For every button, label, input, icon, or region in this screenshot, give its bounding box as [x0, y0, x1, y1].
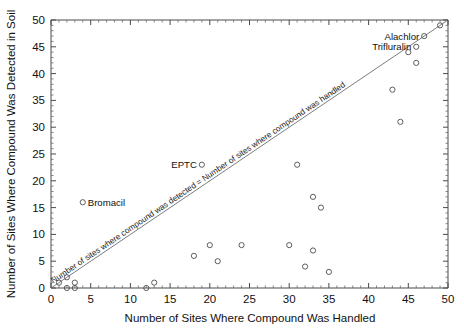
point-annotation-label: Bromacil [88, 197, 125, 208]
x-tick-label: 35 [323, 293, 336, 305]
point-annotation-label: Alachlor [385, 31, 420, 42]
x-tick-label: 45 [402, 293, 415, 305]
x-tick-label: 50 [442, 293, 455, 305]
y-tick-label: 35 [32, 94, 45, 106]
x-tick-label: 25 [243, 293, 256, 305]
y-tick-label: 20 [32, 175, 45, 187]
y-tick-label: 25 [32, 148, 45, 160]
x-tick-label: 30 [283, 293, 296, 305]
y-tick-label: 10 [32, 228, 45, 240]
x-tick-label: 5 [87, 293, 93, 305]
point-annotation-label: Trifluralin [372, 41, 411, 52]
y-tick-label: 30 [32, 121, 45, 133]
x-tick-label: 20 [203, 293, 216, 305]
y-tick-label: 15 [32, 202, 45, 214]
x-tick-label: 10 [124, 293, 137, 305]
x-tick-label: 15 [164, 293, 177, 305]
point-annotation-label: EPTC [171, 159, 197, 170]
x-axis-title: Number of Sites Where Compound Was Handl… [125, 312, 376, 324]
y-axis-title: Number of Sites Where Compound Was Detec… [5, 10, 17, 298]
x-tick-label: 40 [362, 293, 375, 305]
y-tick-label: 45 [32, 41, 45, 53]
y-tick-label: 0 [39, 282, 45, 294]
scatter-plot-figure: 05101520253035404550 0510152025303540455… [0, 0, 464, 330]
y-tick-label: 5 [39, 255, 45, 267]
y-tick-label: 40 [32, 68, 45, 80]
x-tick-label: 0 [48, 293, 54, 305]
y-tick-label: 50 [32, 14, 45, 26]
plot-canvas: 05101520253035404550 0510152025303540455… [0, 0, 464, 330]
